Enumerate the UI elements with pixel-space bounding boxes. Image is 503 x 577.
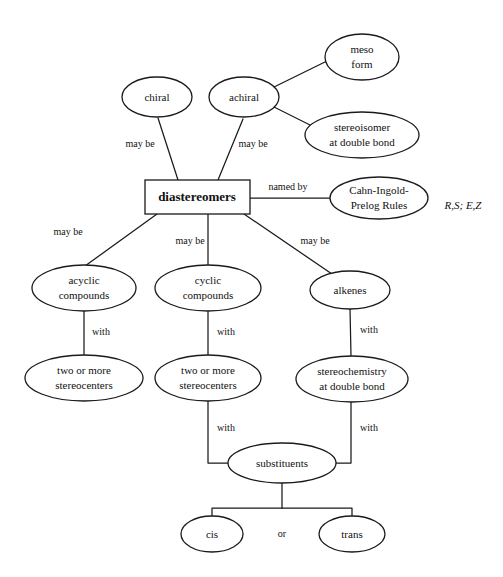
side-note-rs-ez: R,S; E,Z (444, 199, 483, 211)
node-alkenes-label: alkenes (334, 284, 367, 296)
node-stereochemistry-at-double-bond-label-line1: stereochemistry (317, 365, 387, 377)
connector-label-or: or (278, 528, 287, 539)
node-acyclic-compounds-label-line2: compounds (59, 289, 110, 301)
edge-label-acyclic-with: with (92, 326, 110, 337)
edge-stereochemistry-substituents (335, 402, 351, 463)
node-meso-form-label-line1: meso (350, 43, 374, 55)
node-chiral-label: chiral (144, 91, 169, 103)
node-cyclic-compounds-label-line1: cyclic (195, 274, 221, 286)
node-stereocenters-cyclic-label-line2: stereocenters (179, 379, 236, 391)
edge-diastereomers-acyclic (85, 214, 157, 266)
edge-label-cyclic-may-be: may be (175, 235, 205, 246)
edge-label-achiral-may-be: may be (238, 138, 268, 149)
node-meso-form[interactable]: meso form (325, 34, 399, 80)
edge-substituents-trans (282, 508, 352, 517)
node-diastereomers-label: diastereomers (158, 189, 236, 204)
edge-label-alkenes-with: with (360, 324, 378, 335)
node-substituents-label: substituents (256, 457, 308, 469)
node-substituents[interactable]: substituents (228, 443, 336, 483)
node-trans[interactable]: trans (319, 516, 385, 552)
edge-achiral-stereoisomer (274, 107, 312, 126)
edge-achiral-meso-form (272, 60, 329, 88)
node-acyclic-compounds[interactable]: acyclic compounds (32, 265, 136, 311)
edge-alkenes-stereochemistry (350, 308, 351, 356)
node-diastereomers-root[interactable]: diastereomers (145, 180, 250, 214)
node-trans-label: trans (341, 528, 362, 540)
node-cis[interactable]: cis (181, 516, 243, 552)
node-cahn-ingold-prelog-rules-label-line1: Cahn-Ingold- (349, 184, 409, 196)
edge-label-alkenes-may-be: may be (300, 235, 330, 246)
node-acyclic-compounds-label-line1: acyclic (68, 274, 99, 286)
node-achiral-label: achiral (229, 91, 259, 103)
node-stereocenters-acyclic[interactable]: two or more stereocenters (25, 355, 143, 401)
edge-chiral-diastereomers (158, 118, 178, 180)
node-stereoisomer-at-double-bond-label-line1: stereoisomer (334, 121, 391, 133)
node-stereocenters-cyclic[interactable]: two or more stereocenters (155, 355, 261, 401)
node-achiral[interactable]: achiral (209, 77, 279, 117)
node-cyclic-compounds-label-line2: compounds (183, 289, 234, 301)
node-chiral[interactable]: chiral (122, 77, 192, 117)
edge-label-named-by: named by (268, 181, 307, 192)
node-meso-form-label-line2: form (351, 58, 373, 70)
edge-achiral-diastereomers (218, 119, 243, 180)
node-stereoisomer-at-double-bond[interactable]: stereoisomer at double bond (305, 112, 419, 158)
concept-map-diagram: chiral achiral meso form stereoisomer at… (0, 0, 503, 577)
nodes-layer: chiral achiral meso form stereoisomer at… (25, 34, 428, 552)
node-cyclic-compounds[interactable]: cyclic compounds (155, 265, 261, 311)
node-stereoisomer-at-double-bond-label-line2: at double bond (329, 136, 395, 148)
node-cis-label: cis (206, 528, 218, 540)
edge-label-chiral-may-be: may be (125, 138, 155, 149)
node-cahn-ingold-prelog-rules-label-line2: Prelog Rules (351, 199, 408, 211)
node-stereocenters-acyclic-label-line1: two or more (57, 364, 111, 376)
node-stereochemistry-at-double-bond-label-line2: at double bond (319, 380, 385, 392)
node-stereocenters-cyclic-label-line1: two or more (181, 364, 235, 376)
node-stereochemistry-at-double-bond[interactable]: stereochemistry at double bond (296, 356, 408, 402)
edge-label-stereochemistry-with: with (360, 422, 378, 433)
edge-substituents-cis (212, 483, 282, 517)
node-alkenes[interactable]: alkenes (310, 271, 390, 309)
concept-map-canvas: chiral achiral meso form stereoisomer at… (0, 0, 503, 577)
edge-label-cyclic-with: with (217, 326, 235, 337)
edge-label-acyclic-may-be: may be (53, 226, 83, 237)
edge-label-stereocenters-with: with (217, 422, 235, 433)
node-cahn-ingold-prelog-rules[interactable]: Cahn-Ingold- Prelog Rules (330, 177, 428, 219)
node-stereocenters-acyclic-label-line2: stereocenters (55, 379, 112, 391)
